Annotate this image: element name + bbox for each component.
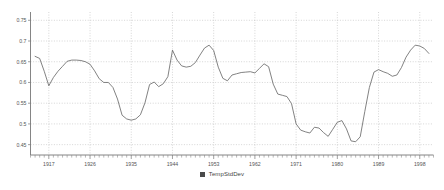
y-tick-label: 0.7 xyxy=(19,38,26,44)
x-tick-label: 1935 xyxy=(125,161,137,167)
x-tick-label: 1953 xyxy=(208,161,220,167)
x-tick-label: 1989 xyxy=(373,161,385,167)
x-tick-label: 1917 xyxy=(43,161,55,167)
x-tick-label: 1971 xyxy=(290,161,302,167)
x-tick-label: 1980 xyxy=(332,161,344,167)
x-tick-label: 1926 xyxy=(84,161,96,167)
y-tick-label: 0.75 xyxy=(16,17,26,23)
chart-legend: TempStdDev xyxy=(0,171,444,177)
legend-label: TempStdDev xyxy=(209,171,244,177)
x-tick-label: 1962 xyxy=(249,161,261,167)
y-tick-label: 0.5 xyxy=(19,121,26,127)
y-tick-label: 0.65 xyxy=(16,59,26,65)
x-tick-label: 1944 xyxy=(167,161,179,167)
series-line xyxy=(35,45,429,142)
x-tick-label: 1998 xyxy=(414,161,426,167)
y-tick-label: 0.6 xyxy=(19,79,26,85)
y-tick-label: 0.55 xyxy=(16,100,26,106)
y-tick-label: 0.45 xyxy=(16,142,26,148)
line-chart-plot: 0.750.70.650.60.550.50.45191719261935194… xyxy=(0,0,444,190)
legend-swatch-icon xyxy=(200,172,205,177)
chart-container: 0.750.70.650.60.550.50.45191719261935194… xyxy=(0,0,444,190)
